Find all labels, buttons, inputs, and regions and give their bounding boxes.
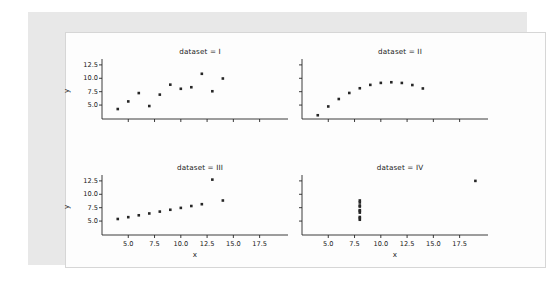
data-point (180, 87, 183, 90)
x-tick-label: 15.0 (221, 240, 245, 248)
x-axis-label: x (302, 250, 488, 259)
data-point (316, 114, 319, 117)
data-point (169, 208, 172, 211)
data-point (201, 203, 204, 206)
y-tick-label: 12.5 (72, 177, 98, 185)
y-tick-label: 5.0 (72, 101, 98, 109)
data-point (390, 81, 393, 84)
x-tick-label: 12.5 (195, 240, 219, 248)
data-point (401, 82, 404, 85)
facet-iv: dataset = IV5.07.510.012.515.017.5x (302, 163, 498, 261)
x-tick-label: 17.5 (448, 240, 472, 248)
y-tick-label: 10.0 (72, 190, 98, 198)
data-point (211, 178, 214, 181)
x-tick-label: 5.0 (116, 240, 140, 248)
data-point (116, 108, 119, 111)
x-tick-label: 12.5 (395, 240, 419, 248)
x-tick-label: 5.0 (316, 240, 340, 248)
plot-area (302, 47, 498, 145)
x-axis-label: x (102, 250, 288, 259)
facet-i: dataset = I5.07.510.012.5y (102, 47, 298, 145)
y-tick-label: 7.5 (72, 204, 98, 212)
x-tick-label: 17.5 (248, 240, 272, 248)
data-point (358, 204, 361, 207)
data-point (222, 77, 225, 80)
data-point (422, 87, 425, 90)
plot-area (102, 47, 298, 145)
x-tick-label: 7.5 (343, 240, 367, 248)
data-point (380, 82, 383, 85)
data-point (127, 216, 130, 219)
data-point (137, 214, 140, 217)
data-point (148, 212, 151, 215)
data-point (201, 72, 204, 75)
facet-grid: dataset = I5.07.510.012.5ydataset = IIda… (66, 33, 547, 269)
data-point (358, 201, 361, 204)
data-point (411, 84, 414, 87)
y-axis-label: y (62, 89, 71, 93)
data-point (327, 105, 330, 108)
data-point (358, 217, 361, 220)
data-point (348, 92, 351, 95)
data-point (474, 180, 477, 183)
data-point (127, 100, 130, 103)
data-point (158, 93, 161, 96)
x-tick-label: 15.0 (421, 240, 445, 248)
data-point (211, 90, 214, 93)
data-point (158, 210, 161, 213)
figure-surface: dataset = I5.07.510.012.5ydataset = IIda… (28, 12, 527, 265)
y-tick-label: 7.5 (72, 88, 98, 96)
y-axis-label: y (62, 205, 71, 209)
data-point (180, 207, 183, 210)
data-point (358, 87, 361, 90)
x-tick-label: 10.0 (369, 240, 393, 248)
data-point (369, 84, 372, 87)
figure-panel: dataset = I5.07.510.012.5ydataset = IIda… (65, 32, 546, 268)
x-tick-label: 10.0 (169, 240, 193, 248)
data-point (190, 205, 193, 208)
data-point (337, 98, 340, 101)
facet-iii: dataset = III5.07.510.012.5y5.07.510.012… (102, 163, 298, 261)
x-tick-label: 7.5 (143, 240, 167, 248)
y-tick-label: 10.0 (72, 74, 98, 82)
data-point (190, 86, 193, 89)
data-point (116, 218, 119, 221)
data-point (169, 83, 172, 86)
data-point (137, 92, 140, 95)
y-tick-label: 5.0 (72, 217, 98, 225)
screenshot-canvas: dataset = I5.07.510.012.5ydataset = IIda… (0, 0, 555, 288)
data-point (148, 105, 151, 108)
facet-ii: dataset = II (302, 47, 498, 145)
data-point (358, 210, 361, 213)
y-tick-label: 12.5 (72, 61, 98, 69)
data-point (222, 199, 225, 202)
